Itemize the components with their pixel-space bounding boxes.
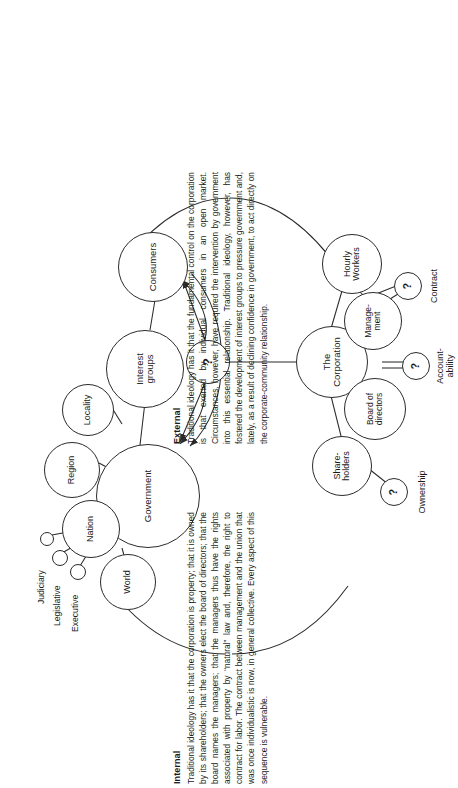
internal-text-block: Internal Traditional ideology has it tha… — [172, 512, 270, 784]
internal-text-wrap: Internal Traditional ideology has it tha… — [0, 340, 254, 788]
node-accountability-question-mark: ? — [410, 362, 422, 371]
node-shareholders-label: Share- holders — [333, 450, 352, 482]
node-management[interactable]: Manage- ment — [344, 292, 402, 350]
label-ownership: Ownership — [418, 462, 428, 522]
label-contract: Contract — [430, 256, 440, 316]
internal-heading: Internal — [172, 512, 182, 784]
node-hourly-workers[interactable]: Hourly Workers — [322, 234, 382, 294]
node-accountability-question[interactable]: ? — [402, 352, 430, 380]
node-hourly-workers-label: Hourly Workers — [343, 246, 362, 281]
node-board-of-directors[interactable]: Board of directors — [344, 378, 406, 440]
node-the-corporation-label: The Corporation — [322, 336, 342, 388]
node-contract-question[interactable]: ? — [394, 272, 422, 300]
internal-body: Traditional ideology has it that the cor… — [185, 512, 270, 784]
node-board-of-directors-label: Board of directors — [366, 392, 384, 427]
node-management-label: Manage- ment — [364, 303, 382, 339]
node-ownership-question-mark: ? — [388, 488, 400, 497]
node-contract-question-mark: ? — [402, 282, 414, 291]
link-corporation-shareholders — [330, 392, 342, 440]
node-ownership-question[interactable]: ? — [380, 478, 408, 506]
label-accountability: Account- ability — [436, 336, 455, 396]
node-shareholders[interactable]: Share- holders — [312, 436, 372, 496]
